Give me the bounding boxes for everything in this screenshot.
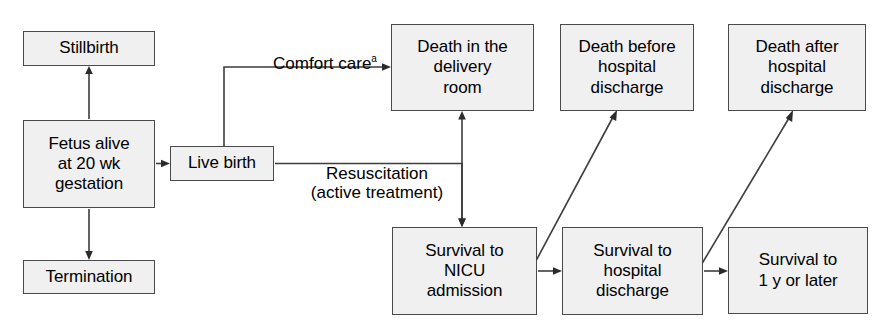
node-live-birth[interactable]: Live birth <box>170 146 274 181</box>
node-death-before-discharge[interactable]: Death before hospital discharge <box>560 24 694 111</box>
edge-fetus-to-termination <box>85 209 93 260</box>
node-survival-1y-label: Survival to 1 y or later <box>755 250 840 290</box>
node-stillbirth-label: Stillbirth <box>56 38 121 58</box>
node-live-birth-label: Live birth <box>185 153 259 173</box>
node-termination-label: Termination <box>43 267 136 287</box>
node-survival-discharge[interactable]: Survival to hospital discharge <box>562 227 703 315</box>
node-survival-nicu-label: Survival to NICU admission <box>422 241 506 301</box>
node-death-after-discharge-label: Death after hospital discharge <box>752 37 841 97</box>
node-stillbirth[interactable]: Stillbirth <box>23 31 155 66</box>
node-fetus-alive[interactable]: Fetus alive at 20 wk gestation <box>23 120 155 208</box>
edge-live-birth-to-death-delivery <box>224 63 391 146</box>
node-death-before-discharge-label: Death before hospital discharge <box>575 37 678 97</box>
node-fetus-alive-label: Fetus alive at 20 wk gestation <box>45 134 132 194</box>
flowchart-canvas: Stillbirth Fetus alive at 20 wk gestatio… <box>0 0 888 326</box>
edge-label-comfort-care-superscript: a <box>371 53 377 64</box>
edge-label-comfort-care-text: Comfort care <box>273 54 371 73</box>
node-survival-1y[interactable]: Survival to 1 y or later <box>728 227 868 314</box>
node-death-after-discharge[interactable]: Death after hospital discharge <box>728 24 866 111</box>
node-death-delivery-room-label: Death in the delivery room <box>414 37 510 97</box>
edge-nicu-to-survival-discharge <box>538 267 562 274</box>
node-survival-discharge-label: Survival to hospital discharge <box>590 241 674 301</box>
edge-fetus-to-live-birth <box>156 160 170 167</box>
node-death-delivery-room[interactable]: Death in the delivery room <box>391 24 534 111</box>
edge-label-comfort-care: Comfort carea <box>245 34 405 73</box>
edge-label-resuscitation: Resuscitation (active treatment) <box>286 144 468 203</box>
edge-discharge-to-survival-1y <box>704 267 728 274</box>
edge-fetus-to-stillbirth <box>85 66 93 119</box>
node-survival-nicu[interactable]: Survival to NICU admission <box>392 227 537 315</box>
edge-label-resuscitation-text: Resuscitation (active treatment) <box>311 164 443 203</box>
node-termination[interactable]: Termination <box>23 260 155 294</box>
